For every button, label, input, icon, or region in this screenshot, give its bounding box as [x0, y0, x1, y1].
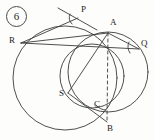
point-label-q: Q — [141, 39, 148, 48]
segment-s-b — [68, 93, 107, 122]
point-label-a: A — [110, 18, 117, 27]
tangent-line-at-p — [58, 8, 97, 30]
segment-s-a — [68, 33, 108, 93]
segment-r-p — [21, 18, 78, 43]
segment-r-a — [21, 33, 108, 43]
point-label-p: P — [81, 5, 86, 14]
point-label-r: R — [9, 36, 15, 45]
point-label-c: C — [94, 100, 100, 109]
point-label-b: B — [107, 124, 113, 133]
point-label-s: S — [59, 89, 64, 98]
big-left-circle — [13, 26, 117, 130]
inner-circle — [60, 44, 124, 108]
geometry-figure: 6 P A Q R S B C — [0, 0, 154, 140]
figure-number-badge: 6 — [6, 6, 27, 27]
